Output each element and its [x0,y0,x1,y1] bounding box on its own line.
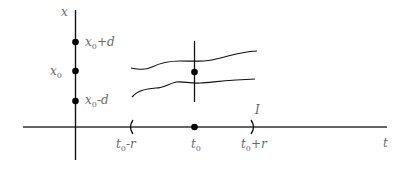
label-sub: 0 [57,71,62,80]
label-suffix: -r [126,137,136,151]
label-x0-minus-d: x0-d [85,94,109,109]
label-t0-plus-r: t0+r [241,138,267,153]
label-base: x [85,35,92,49]
point-t0-x0 [191,69,198,76]
label-suffix: +d [97,35,115,49]
point-t0 [191,124,198,131]
label-base: x [85,93,92,107]
point-x0-plus-d [72,39,79,46]
label-sub: 0 [196,144,201,153]
label-base: x [50,64,57,78]
vertical-axis-label: x [61,6,68,18]
label-t0-minus-r: t0-r [116,138,136,153]
label-t0: t0 [191,138,201,153]
interval-label: I [255,104,260,116]
diagram-canvas [0,0,409,169]
label-suffix: -d [97,93,109,107]
point-x0 [72,68,79,75]
point-x0-minus-d [72,98,79,105]
horizontal-axis-label: t [383,137,388,149]
label-x0: x0 [50,65,62,80]
lower-solution-curve [132,79,255,97]
label-suffix: +r [251,137,267,151]
label-x0-plus-d: x0+d [85,36,115,51]
